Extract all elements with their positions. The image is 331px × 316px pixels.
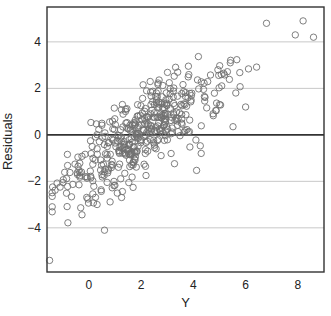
data-point [195,53,201,59]
data-point [94,201,100,207]
y-tick-label: −4 [27,221,41,235]
data-point [198,150,204,156]
data-point [142,163,148,169]
data-point [143,172,149,178]
data-point [171,161,177,167]
data-point [64,151,70,157]
data-point [168,150,174,156]
data-point [207,72,213,78]
data-point [140,82,146,88]
data-point [64,162,70,168]
data-point [187,144,193,150]
y-axis-label: Residuals [0,112,15,170]
y-axis-ticks: −4−2024 [27,35,41,235]
data-point [78,205,84,211]
data-point [122,170,128,176]
data-point [166,80,172,86]
data-point [211,90,217,96]
x-tick-label: 4 [190,278,197,292]
y-tick-label: 4 [34,35,41,49]
data-point [177,133,183,139]
data-point [300,18,306,24]
data-point [107,199,113,205]
y-tick-label: 2 [34,81,41,95]
data-point [263,20,269,26]
data-point [205,78,211,84]
data-point [142,146,148,152]
data-point [230,124,236,130]
y-tick-label: 0 [34,128,41,142]
data-point [49,193,55,199]
data-point [185,63,191,69]
data-point [217,62,223,68]
data-point [76,182,82,188]
data-point [147,78,153,84]
data-point [204,105,210,111]
data-point [171,73,177,79]
data-point [245,66,251,72]
data-point [237,84,243,90]
data-point [253,64,259,70]
data-point [193,137,199,143]
x-tick-label: 0 [85,278,92,292]
data-point [104,179,110,185]
data-point [292,32,298,38]
scatter-points [46,18,316,264]
data-point [64,203,70,209]
data-point [175,128,181,134]
data-point [310,34,316,40]
x-axis-label: Y [181,295,190,310]
data-point [242,104,248,110]
data-point [139,95,145,101]
data-point [233,90,239,96]
data-point [111,105,117,111]
data-point [158,152,164,158]
data-point [118,194,124,200]
data-point [171,100,177,106]
residual-scatter-chart: −4−2024 02468 Y Residuals [0,0,331,316]
data-point [65,220,71,226]
data-point [63,190,69,196]
x-tick-label: 8 [295,278,302,292]
data-point [126,179,132,185]
x-axis-ticks: 02468 [85,278,301,292]
data-point [234,57,240,63]
x-tick-label: 2 [138,278,145,292]
data-point [194,77,200,83]
data-point [237,69,243,75]
x-tick-label: 6 [242,278,249,292]
data-point [164,69,170,75]
data-point [187,117,193,123]
data-point [197,143,203,149]
data-point [196,86,202,92]
data-point [180,81,186,87]
data-point [193,167,199,173]
plot-frame [47,7,324,272]
data-point [79,212,85,218]
data-point [198,123,204,129]
y-tick-label: −2 [27,174,41,188]
data-point [84,194,90,200]
